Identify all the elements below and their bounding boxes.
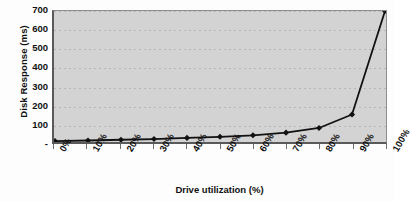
data-point-marker (184, 135, 190, 141)
y-axis-tick-label: 500 (18, 43, 48, 53)
plot-inner (54, 11, 386, 142)
x-axis-title: Drive utilization (%) (52, 184, 387, 195)
y-axis-tick-label: - (18, 139, 48, 149)
data-point-marker (250, 132, 256, 138)
y-axis-tick-label: 300 (18, 82, 48, 92)
x-axis-tick-labels: 0%10%20%30%40%50%60%70%80%90%100% (52, 148, 392, 184)
data-point-marker (217, 134, 223, 140)
y-axis-tick-label: 200 (18, 101, 48, 111)
data-point-marker (283, 130, 289, 136)
series-line-disk-response (54, 11, 386, 142)
data-point-marker (382, 10, 387, 14)
series-polyline (55, 11, 385, 141)
data-point-marker (85, 137, 91, 143)
data-point-marker (349, 111, 355, 117)
y-axis-tick-labels: -100200300400500600700 (17, 0, 48, 202)
y-axis-tick-label: 100 (18, 120, 48, 130)
y-axis-tick-label: 700 (18, 5, 48, 15)
data-point-marker (316, 125, 322, 131)
y-axis-tick-label: 600 (18, 24, 48, 34)
y-axis-tick-label: 400 (18, 62, 48, 72)
data-point-marker (151, 136, 157, 142)
x-axis-tick-label: 100% (390, 127, 412, 154)
plot-area (52, 10, 387, 144)
data-point-marker (118, 137, 124, 143)
